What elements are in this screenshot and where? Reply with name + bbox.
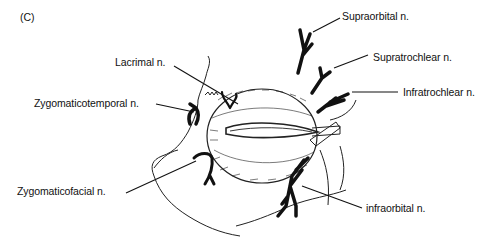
- label-zygomaticofacial-nerve: Zygomaticofacial n.: [17, 186, 106, 197]
- leader-zygomaticofacial: [126, 161, 196, 193]
- leader-lines: [126, 18, 398, 208]
- face-contour: [152, 56, 356, 236]
- label-supratrochlear-nerve: Supratrochlear n.: [373, 52, 452, 63]
- label-infraorbital-nerve: infraorbital n.: [366, 203, 425, 214]
- leader-supraorbital: [313, 18, 340, 32]
- leader-lacrimal: [174, 66, 238, 104]
- label-lacrimal-nerve: Lacrimal n.: [115, 57, 165, 68]
- leader-infraorbital: [302, 186, 362, 208]
- label-zygomaticotemporal-nerve: Zygomaticotemporal n.: [34, 98, 139, 109]
- label-supraorbital-nerve: Supraorbital n.: [342, 11, 409, 22]
- leader-supratrochlear: [334, 55, 368, 68]
- label-infratrochlear-nerve: Infratrochlear n.: [403, 87, 475, 98]
- panel-label: (C): [20, 12, 34, 23]
- leader-zygomaticotemporal: [156, 104, 194, 112]
